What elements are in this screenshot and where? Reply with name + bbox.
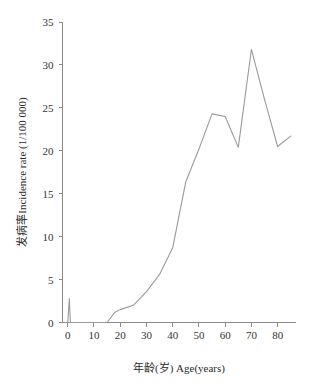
- x-tick-label: 80: [272, 329, 284, 341]
- x-tick-label: 20: [115, 329, 127, 341]
- x-tick-label: 40: [167, 329, 179, 341]
- x-tick-label: 30: [141, 329, 153, 341]
- y-tick-label: 10: [43, 231, 55, 243]
- y-axis-tick-labels: 05101520253035: [43, 16, 55, 329]
- y-tick-label: 0: [48, 317, 54, 329]
- x-axis-ticks: [68, 323, 278, 327]
- x-tick-label: 10: [88, 329, 100, 341]
- incidence-rate-series-line: [68, 49, 291, 322]
- x-tick-label: 50: [193, 329, 205, 341]
- incidence-rate-line-chart: 05101520253035 01020304050607080 发病率Inci…: [0, 0, 316, 392]
- y-tick-label: 15: [43, 188, 55, 200]
- y-axis-title: 发病率Incidence rate (1/100 000): [15, 97, 29, 247]
- y-tick-label: 30: [43, 59, 55, 71]
- y-tick-label: 35: [43, 16, 55, 28]
- x-axis-title: 年龄(岁) Age(years): [133, 361, 225, 375]
- x-tick-label: 60: [220, 329, 232, 341]
- x-axis-tick-labels: 01020304050607080: [65, 329, 284, 341]
- y-tick-label: 25: [43, 102, 55, 114]
- plot-area: [63, 22, 297, 323]
- y-tick-label: 20: [43, 145, 55, 157]
- y-tick-label: 5: [48, 274, 54, 286]
- x-tick-label: 70: [246, 329, 258, 341]
- y-axis-ticks: [59, 22, 63, 323]
- x-tick-label: 0: [65, 329, 71, 341]
- chart-container: 05101520253035 01020304050607080 发病率Inci…: [0, 0, 316, 392]
